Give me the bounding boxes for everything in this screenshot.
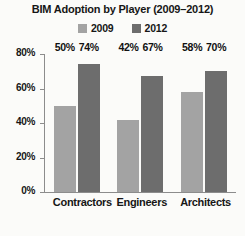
bar-engineers-2012[interactable]: 67% xyxy=(141,54,163,192)
bar-value-label: 42% xyxy=(118,41,138,53)
bar-architects-2012[interactable]: 70% xyxy=(205,54,227,192)
y-tick-label: 80% xyxy=(16,47,35,58)
legend-swatch-2009 xyxy=(78,24,87,33)
bar-value-label: 50% xyxy=(55,41,75,53)
bar-architects-2009[interactable]: 58% xyxy=(181,54,203,192)
legend-item-2009: 2009 xyxy=(78,22,114,34)
bar-rect xyxy=(141,76,163,192)
bar-rect xyxy=(181,92,203,192)
bar-group-engineers: 42%67% xyxy=(117,54,163,192)
y-tick-label: 0% xyxy=(21,185,35,196)
bar-rect xyxy=(205,71,227,192)
x-axis-categories: ContractorsEngineersArchitects xyxy=(45,196,236,208)
bar-contractors-2012[interactable]: 74% xyxy=(78,54,100,192)
bar-value-label: 74% xyxy=(79,41,99,53)
y-tick-label: 20% xyxy=(16,151,35,162)
bar-chart: BIM Adoption by Player (2009–2012) 2009 … xyxy=(0,0,245,236)
bar-rect xyxy=(117,120,139,192)
category-label-engineers: Engineers xyxy=(116,196,164,208)
y-tick-label: 40% xyxy=(16,116,35,127)
legend-label-2012: 2012 xyxy=(145,22,168,34)
category-label-architects: Architects xyxy=(180,196,228,208)
category-label-contractors: Contractors xyxy=(53,196,101,208)
y-tick-label: 60% xyxy=(16,82,35,93)
bars-layer: 50%74%42%67%58%70% xyxy=(45,54,236,192)
bar-group-architects: 58%70% xyxy=(181,54,227,192)
bar-value-label: 58% xyxy=(182,41,202,53)
legend-label-2009: 2009 xyxy=(91,22,114,34)
chart-legend: 2009 2012 xyxy=(0,22,245,34)
bar-value-label: 67% xyxy=(142,41,162,53)
bar-value-label: 70% xyxy=(206,41,226,53)
bar-rect xyxy=(54,106,76,192)
plot-area: 0%20%40%60%80% 50%74%42%67%58%70% xyxy=(44,54,236,193)
bar-group-contractors: 50%74% xyxy=(54,54,100,192)
bar-engineers-2009[interactable]: 42% xyxy=(117,54,139,192)
chart-title: BIM Adoption by Player (2009–2012) xyxy=(0,3,245,15)
x-axis-line xyxy=(44,192,236,193)
legend-item-2012: 2012 xyxy=(132,22,168,34)
bar-rect xyxy=(78,64,100,192)
y-tick-0pct: 0% xyxy=(40,192,45,193)
bar-contractors-2009[interactable]: 50% xyxy=(54,54,76,192)
legend-swatch-2012 xyxy=(132,24,141,33)
